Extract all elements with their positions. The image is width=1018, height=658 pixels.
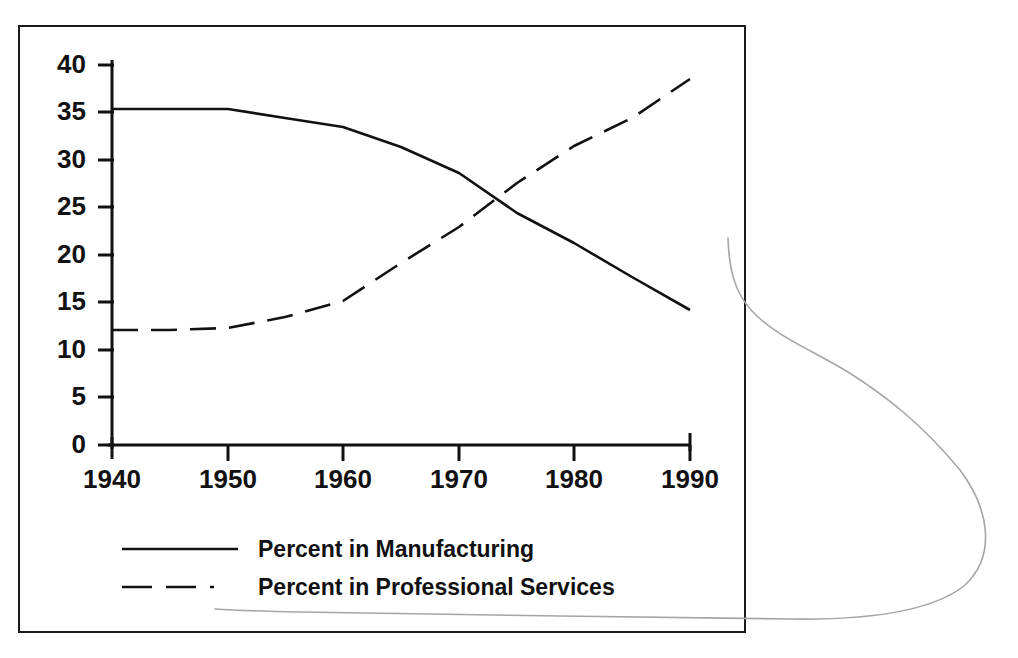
y-tick-label-40: 40 [26, 51, 86, 77]
x-tick-label-1990: 1990 [635, 466, 745, 492]
y-tick-label-15: 15 [26, 288, 86, 314]
solid-line-swatch [120, 542, 240, 556]
y-tick-label-10: 10 [26, 336, 86, 362]
series-line-professional-services [112, 79, 690, 330]
x-axis-ticks [112, 437, 690, 461]
y-tick-label-0: 0 [26, 431, 86, 457]
x-tick-label-1950: 1950 [173, 466, 283, 492]
x-tick-label-1940: 1940 [57, 466, 167, 492]
x-tick-label-1960: 1960 [288, 466, 398, 492]
chart-legend: Percent in Manufacturing Percent in Prof… [120, 530, 680, 606]
dashed-line-swatch [120, 580, 240, 594]
x-tick-label-1980: 1980 [519, 466, 629, 492]
legend-label-manufacturing: Percent in Manufacturing [258, 536, 534, 563]
legend-entry-manufacturing: Percent in Manufacturing [120, 530, 680, 568]
legend-label-professional-services: Percent in Professional Services [258, 574, 615, 601]
y-tick-label-5: 5 [26, 383, 86, 409]
x-tick-label-1970: 1970 [404, 466, 514, 492]
legend-entry-professional-services: Percent in Professional Services [120, 568, 680, 606]
y-tick-label-25: 25 [26, 193, 86, 219]
y-tick-label-30: 30 [26, 146, 86, 172]
scanned-page: 40 35 30 25 20 15 10 5 0 1940 1950 1960 … [0, 0, 1018, 658]
y-tick-label-35: 35 [26, 98, 86, 124]
y-tick-label-20: 20 [26, 241, 86, 267]
series-line-manufacturing [112, 109, 690, 310]
